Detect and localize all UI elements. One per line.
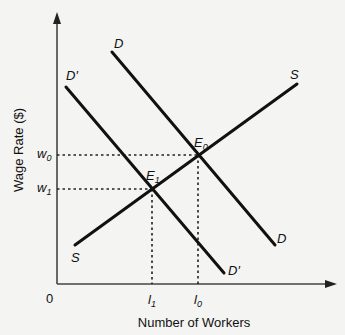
label-D-bottom: D (277, 231, 286, 246)
label-E1: E1 (146, 168, 160, 185)
tick-l0: l0 (194, 292, 202, 309)
demand-curve-D-prime (66, 87, 224, 273)
supply-curve-S (75, 84, 297, 245)
labor-market-diagram: D D D′ D′ S S E0 E1 w0 w1 l1 l0 0 Number… (0, 0, 345, 335)
origin-label: 0 (46, 291, 53, 306)
label-S-bottom: S (71, 250, 80, 265)
tick-w0: w0 (37, 146, 51, 163)
tick-w1: w1 (37, 180, 51, 197)
label-E0: E0 (194, 135, 208, 152)
y-axis-title: Wage Rate ($) (11, 108, 26, 192)
x-axis-arrow-icon (325, 280, 337, 288)
label-S-top: S (290, 67, 299, 82)
label-Dprime-bottom: D′ (228, 263, 240, 278)
label-Dprime-top: D′ (66, 68, 78, 83)
tick-l1: l1 (148, 292, 156, 309)
x-axis-title: Number of Workers (138, 315, 251, 330)
curves (66, 52, 297, 273)
y-axis-arrow-icon (53, 12, 61, 24)
label-D-top: D (114, 36, 123, 51)
